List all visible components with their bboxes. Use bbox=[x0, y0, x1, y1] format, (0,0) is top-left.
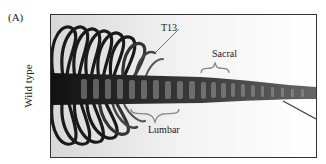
skeleton-photo bbox=[51, 15, 316, 157]
sacral-label: Sacral bbox=[212, 48, 237, 59]
panel-label: (A) bbox=[8, 11, 23, 23]
row-label: Wild type bbox=[22, 64, 34, 107]
t13-label: T13 bbox=[161, 22, 177, 33]
skeleton-image-frame bbox=[50, 14, 317, 158]
lumbar-label: Lumbar bbox=[148, 124, 180, 135]
